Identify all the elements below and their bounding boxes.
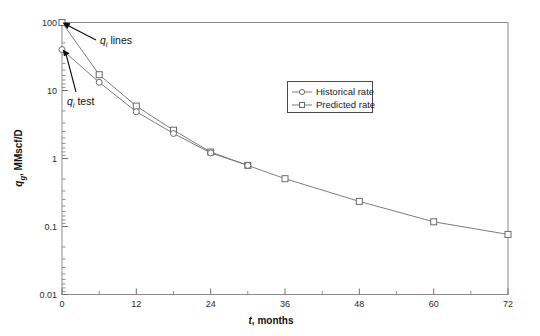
legend-circle-marker <box>299 89 304 94</box>
data-point-marker <box>245 162 251 168</box>
x-tick-label-12: 12 <box>131 299 141 309</box>
data-point-marker <box>208 150 214 156</box>
legend-label-historical-rate: Historical rate <box>316 86 374 97</box>
x-tick-label-72: 72 <box>503 299 513 309</box>
x-axis-title-rest: , months <box>252 315 294 326</box>
data-point-marker <box>431 219 437 225</box>
y-tick-labels: 100 10 1 0.1 0.01 <box>39 18 57 300</box>
series-historical-rate <box>59 47 251 169</box>
x-axis-title: t, months <box>248 315 293 326</box>
y-axis-title-rest: , MMscf/D <box>13 129 24 176</box>
y-axis-minor-ticks <box>62 43 66 291</box>
predicted-rate-line <box>62 23 508 235</box>
data-point-marker <box>96 79 102 85</box>
data-point-marker <box>96 72 102 78</box>
y-tick-label-100: 100 <box>42 18 57 28</box>
y-tick-label-0.1: 0.1 <box>44 222 57 232</box>
annotation-qi-lines-rest: lines <box>108 34 133 46</box>
svg-text:qg, MMscf/D: qg, MMscf/D <box>13 129 27 186</box>
x-tick-label-36: 36 <box>280 299 290 309</box>
svg-text:qi test: qi test <box>67 95 94 110</box>
x-tick-label-60: 60 <box>429 299 439 309</box>
annotation-qi-lines: qi lines <box>63 23 133 50</box>
series-predicted-rate <box>59 20 511 238</box>
svg-text:qi lines: qi lines <box>100 34 132 49</box>
data-point-marker <box>282 176 288 182</box>
y-axis-title: qg, MMscf/D <box>13 129 27 186</box>
y-tick-label-1: 1 <box>52 154 57 164</box>
x-axis-ticks <box>62 289 508 295</box>
x-tick-label-0: 0 <box>59 299 64 309</box>
plot-frame <box>62 23 508 295</box>
historical-rate-line <box>62 50 248 166</box>
decline-curve-chart: 100 10 1 0.1 0.01 0 12 24 36 <box>0 0 540 336</box>
x-tick-label-48: 48 <box>354 299 364 309</box>
data-point-marker <box>505 231 511 237</box>
annotation-qi-test-rest: test <box>75 95 95 107</box>
x-tick-label-24: 24 <box>206 299 216 309</box>
x-tick-labels: 0 12 24 36 48 60 72 <box>59 299 513 309</box>
chart-figure: 100 10 1 0.1 0.01 0 12 24 36 <box>0 0 540 336</box>
data-point-marker <box>171 131 177 137</box>
y-tick-label-10: 10 <box>47 86 57 96</box>
data-point-marker <box>356 198 362 204</box>
data-point-marker <box>133 109 139 115</box>
annotation-qi-test: qi test <box>63 50 95 110</box>
svg-text:t, months: t, months <box>248 315 293 326</box>
chart-legend: Historical rate Predicted rate <box>288 82 376 113</box>
legend-label-predicted-rate: Predicted rate <box>316 99 375 110</box>
legend-square-marker <box>300 103 305 108</box>
y-tick-label-0.01: 0.01 <box>39 290 57 300</box>
